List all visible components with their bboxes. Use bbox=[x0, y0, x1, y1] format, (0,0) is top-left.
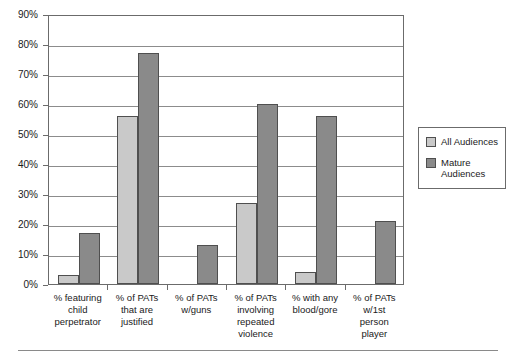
x-axis-labels: % featuringchildperpetrator% of PATsthat… bbox=[48, 292, 404, 354]
x-axis-category-label-line: % of PATs bbox=[167, 292, 226, 304]
x-axis-category-label-line: % with any bbox=[285, 292, 344, 304]
y-axis: 0%10%20%30%40%50%60%70%80%90% bbox=[0, 15, 48, 285]
bar bbox=[117, 116, 138, 284]
x-axis-tick-mark bbox=[345, 285, 346, 290]
x-axis-category-label-line: repeated bbox=[226, 316, 285, 328]
y-axis-tick-label: 90% bbox=[18, 10, 38, 20]
x-axis-category-label-line: child bbox=[48, 304, 107, 316]
bar bbox=[138, 53, 159, 284]
x-axis-category-label: % of PATsinvolvingrepeatedviolence bbox=[226, 292, 285, 340]
x-axis-tick-mark bbox=[226, 285, 227, 290]
footer-divider bbox=[18, 350, 498, 351]
x-axis-category-label-line: violence bbox=[226, 328, 285, 340]
x-axis-category-label-line: w/1st bbox=[345, 304, 404, 316]
plot-area bbox=[48, 15, 404, 285]
y-axis-tick-label: 30% bbox=[18, 190, 38, 200]
x-axis-category-label: % of PATsw/guns bbox=[167, 292, 226, 316]
legend-swatch-icon-all-audiences bbox=[426, 137, 436, 147]
x-axis-category-label: % featuringchildperpetrator bbox=[48, 292, 107, 328]
y-axis-tick-label: 20% bbox=[18, 220, 38, 230]
x-axis-tick-mark bbox=[167, 285, 168, 290]
y-axis-tick-label: 80% bbox=[18, 40, 38, 50]
y-axis-tick-label: 50% bbox=[18, 130, 38, 140]
x-axis-category-label-line: % of PATs bbox=[226, 292, 285, 304]
chart-legend: All Audiences Mature Audiences bbox=[418, 127, 506, 189]
legend-label-mature-audiences: Mature Audiences bbox=[441, 157, 499, 180]
bar bbox=[236, 203, 257, 284]
x-axis-category-label: % with anyblood/gore bbox=[285, 292, 344, 316]
y-axis-tick-label: 70% bbox=[18, 70, 38, 80]
x-axis-category-label-line: that are bbox=[107, 304, 166, 316]
legend-entry-all-audiences: All Audiences bbox=[426, 136, 499, 148]
bar bbox=[197, 245, 218, 284]
bar bbox=[295, 272, 316, 284]
x-axis-category-label-line: player bbox=[345, 328, 404, 340]
x-axis-category-label-line: blood/gore bbox=[285, 304, 344, 316]
x-axis-category-label-line: % of PATs bbox=[345, 292, 404, 304]
x-axis-category-label-line: w/guns bbox=[167, 304, 226, 316]
legend-label-all-audiences: All Audiences bbox=[441, 136, 498, 148]
bar bbox=[58, 275, 79, 284]
x-axis-category-label-line: % of PATs bbox=[107, 292, 166, 304]
y-axis-tick-label: 60% bbox=[18, 100, 38, 110]
x-axis-category-label-line: justified bbox=[107, 316, 166, 328]
x-axis-category-label-line: % featuring bbox=[48, 292, 107, 304]
y-axis-tick-label: 10% bbox=[18, 250, 38, 260]
bar-chart: 0%10%20%30%40%50%60%70%80%90% % featurin… bbox=[0, 0, 514, 358]
x-axis-tick-mark bbox=[107, 285, 108, 290]
legend-swatch-icon-mature-audiences bbox=[426, 158, 436, 168]
x-axis-tick-mark bbox=[285, 285, 286, 290]
x-axis-category-label-line: perpetrator bbox=[48, 316, 107, 328]
bar bbox=[316, 116, 337, 284]
x-axis-category-label: % of PATsthat arejustified bbox=[107, 292, 166, 328]
x-axis-ticks bbox=[48, 285, 404, 291]
bars-layer bbox=[49, 16, 403, 284]
x-axis-category-label-line: involving bbox=[226, 304, 285, 316]
x-axis-category-label: % of PATsw/1stpersonplayer bbox=[345, 292, 404, 340]
x-axis-category-label-line: person bbox=[345, 316, 404, 328]
bar bbox=[257, 104, 278, 284]
legend-entry-mature-audiences: Mature Audiences bbox=[426, 157, 499, 180]
y-axis-tick-label: 0% bbox=[24, 280, 38, 290]
y-axis-tick-label: 40% bbox=[18, 160, 38, 170]
bar bbox=[79, 233, 100, 284]
bar bbox=[375, 221, 396, 284]
